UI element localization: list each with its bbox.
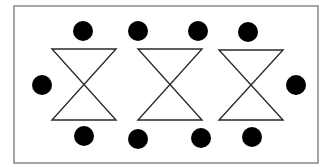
hourglass-shape-3 (219, 50, 283, 120)
dot-3 (188, 21, 208, 41)
hourglass-shape-2 (138, 49, 202, 120)
dot-8 (128, 129, 148, 149)
dot-9 (191, 128, 211, 148)
hourglass-dot-diagram (0, 0, 331, 167)
dot-5 (32, 75, 52, 95)
dot-10 (242, 127, 262, 147)
dot-2 (128, 21, 148, 41)
hourglass-shape-1 (52, 49, 116, 120)
dot-7 (74, 126, 94, 146)
dot-6 (286, 75, 306, 95)
diagram-frame (14, 6, 318, 163)
dot-4 (238, 22, 258, 42)
dot-1 (73, 21, 93, 41)
hourglass-group (52, 49, 283, 120)
